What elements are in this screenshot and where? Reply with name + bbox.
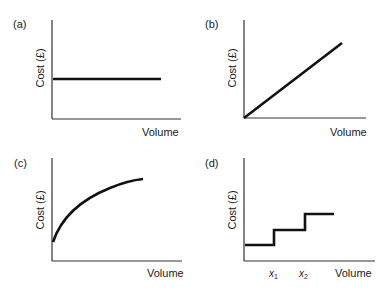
panel-d-x2-tick: x2: [298, 268, 308, 280]
panel-c-label: (c): [14, 157, 27, 169]
panel-a-y-axis-label: Cost (£): [34, 48, 46, 87]
panel-c-x-axis-label: Volume: [147, 267, 184, 279]
panel-a: (a) Cost (£) Volume: [13, 18, 181, 138]
panel-d-y-axis-label: Cost (£): [226, 190, 238, 229]
cost-behaviour-diagram: (a) Cost (£) Volume (b) Cost (£) Volume …: [0, 0, 382, 290]
panel-c-y-axis-label: Cost (£): [34, 190, 46, 229]
panel-d-label: (d): [205, 157, 218, 169]
panel-c: (c) Cost (£) Volume: [14, 157, 184, 279]
panel-b-variable-cost-line: [244, 43, 342, 118]
panel-b-x-axis-label: Volume: [330, 126, 367, 138]
panel-b: (b) Cost (£) Volume: [205, 18, 367, 138]
panel-d: (d) Cost (£) x1 x2 Volume: [205, 157, 375, 280]
panel-d-stepped-cost-line: [245, 214, 334, 245]
panel-a-label: (a): [13, 18, 26, 30]
panel-c-cost-curve: [53, 179, 143, 242]
panel-a-x-axis-label: Volume: [142, 126, 179, 138]
panel-d-x1-tick: x1: [268, 268, 278, 280]
panel-b-y-axis-label: Cost (£): [226, 48, 238, 87]
panel-b-label: (b): [205, 18, 218, 30]
panel-d-x-axis-label: Volume: [335, 267, 372, 279]
